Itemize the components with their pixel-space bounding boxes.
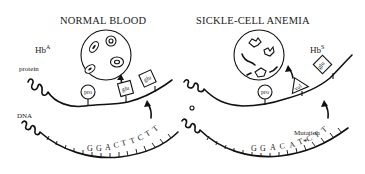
arrow-head-icon bbox=[285, 65, 292, 72]
mutated-base: A bbox=[288, 140, 296, 150]
base: G bbox=[87, 144, 93, 153]
svg-text:pro: pro bbox=[84, 89, 92, 95]
amino-acid-glu: glu bbox=[313, 55, 333, 79]
normal-rbc bbox=[83, 63, 96, 75]
amino-acid-glu: glu bbox=[139, 70, 156, 92]
base: A bbox=[270, 143, 276, 152]
normal-blood-panel: NORMAL BLOOD HbA protein bbox=[17, 15, 178, 158]
sickle-rbc bbox=[249, 38, 261, 47]
base: T bbox=[120, 138, 127, 148]
dna-sequence: G G A C T T C T T bbox=[87, 123, 160, 153]
normal-rbc bbox=[111, 57, 124, 67]
normal-blood-cell-view bbox=[81, 30, 131, 80]
base: G bbox=[251, 144, 257, 153]
amino-acid-glu: glu bbox=[118, 81, 134, 102]
amino-acid-pro: pro bbox=[258, 85, 272, 105]
arrow-head-icon bbox=[321, 100, 328, 107]
sickle-rbc bbox=[247, 73, 251, 75]
base: A bbox=[105, 143, 111, 152]
base: C bbox=[136, 132, 145, 142]
base: G bbox=[260, 144, 266, 153]
normal-blood-title: NORMAL BLOOD bbox=[60, 15, 147, 26]
base: T bbox=[143, 128, 152, 138]
sickle-cell-title: SICKLE-CELL ANEMIA bbox=[196, 15, 310, 26]
amino-acid-val: val bbox=[290, 76, 309, 96]
hb-a-label: HbA bbox=[35, 44, 51, 55]
base: T bbox=[319, 124, 329, 134]
base: T bbox=[129, 136, 137, 146]
sickle-rbc bbox=[270, 67, 277, 72]
normal-rbc bbox=[88, 40, 101, 54]
hb-s-label: HbS bbox=[310, 44, 324, 55]
base: T bbox=[312, 129, 321, 139]
base: G bbox=[96, 144, 102, 153]
base: C bbox=[279, 141, 286, 151]
chain-end bbox=[190, 106, 194, 110]
sickle-rbc bbox=[264, 47, 274, 56]
svg-text:pro: pro bbox=[261, 89, 269, 95]
dna-label: DNA bbox=[17, 112, 32, 120]
base: C bbox=[113, 140, 120, 150]
sickle-cell-diagram: NORMAL BLOOD HbA protein bbox=[0, 0, 365, 174]
sickle-rbc bbox=[242, 54, 255, 65]
base: T bbox=[151, 123, 161, 133]
protein-label: protein bbox=[19, 65, 39, 73]
sickle-cell-panel: SICKLE-CELL ANEMIA HbS pro val bbox=[182, 15, 352, 157]
arrow-head-icon bbox=[144, 100, 151, 107]
sickle-blood-cell-view bbox=[234, 30, 284, 80]
normal-rbc bbox=[106, 36, 116, 46]
sickle-rbc bbox=[255, 68, 266, 77]
amino-acid-pro: pro bbox=[81, 85, 95, 105]
